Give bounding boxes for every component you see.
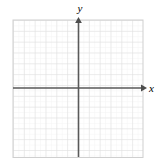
x-axis-label: x [149, 83, 161, 94]
y-axis-label: y [74, 3, 86, 14]
coordinate-grid-screenshot: y x [0, 0, 161, 165]
coordinate-plane-figure [0, 0, 161, 165]
